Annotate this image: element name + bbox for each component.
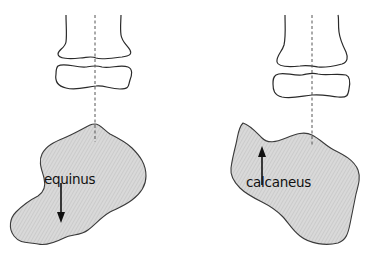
equinus-label: equinus — [44, 173, 95, 187]
left-talus-outline — [56, 65, 132, 89]
left-panel-equinus — [10, 15, 146, 245]
left-tibia-outline — [58, 15, 131, 59]
diagram-canvas — [0, 0, 375, 260]
right-panel-calcaneus — [231, 15, 359, 244]
calcaneus-label: calcaneus — [246, 176, 311, 190]
right-talus-outline — [273, 73, 350, 98]
